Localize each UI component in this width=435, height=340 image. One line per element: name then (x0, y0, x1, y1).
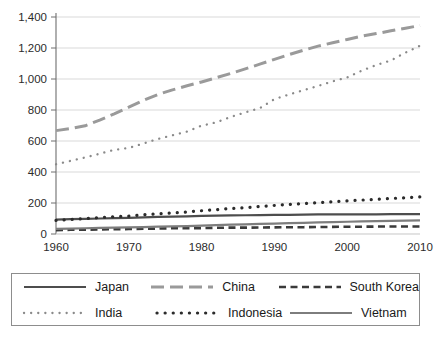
y-axis-tick-label: 200 (28, 197, 47, 209)
data-series-layer (56, 26, 420, 231)
gridlines (56, 17, 420, 234)
x-axis-tick-label: 2000 (334, 241, 360, 253)
legend-item-south-korea[interactable]: South Korea (277, 280, 420, 294)
legend-label: India (95, 306, 122, 320)
legend-item-india[interactable]: India (22, 306, 155, 320)
legend-row: JapanChinaSouth Korea (12, 274, 419, 300)
y-axis-tick-label: 600 (28, 135, 47, 147)
y-axis-tick-label: 800 (28, 104, 47, 116)
legend-swatch-vietnam (288, 307, 354, 319)
plot-svg: 1,4001,2001,0008006004002000 19601970198… (0, 0, 435, 265)
y-axis-tick-label: 1,200 (18, 42, 47, 54)
plot-area: 1,4001,2001,0008006004002000 19601970198… (0, 0, 435, 265)
series-line-japan (56, 214, 420, 219)
legend-item-indonesia[interactable]: Indonesia (155, 306, 288, 320)
legend-label: China (222, 280, 255, 294)
legend-label: Japan (95, 280, 129, 294)
legend-item-vietnam[interactable]: Vietnam (288, 306, 407, 320)
legend-swatch-indonesia (155, 307, 221, 319)
legend-swatch-south-korea (277, 281, 343, 293)
series-line-vietnam (56, 220, 420, 229)
y-axis-tick-label: 1,000 (18, 73, 47, 85)
legend-label: South Korea (350, 280, 420, 294)
legend-swatch-china (149, 281, 215, 293)
x-axis-tick-label: 1980 (189, 241, 215, 253)
legend: JapanChinaSouth Korea IndiaIndonesiaViet… (11, 273, 420, 326)
series-line-indonesia (56, 197, 420, 221)
y-axis-tick-labels: 1,4001,2001,0008006004002000 (18, 11, 47, 240)
line-chart: 1,4001,2001,0008006004002000 19601970198… (0, 0, 435, 340)
legend-item-japan[interactable]: Japan (22, 280, 149, 294)
x-axis-tick-label: 1960 (43, 241, 69, 253)
y-axis-tick-label: 0 (41, 228, 47, 240)
legend-row: IndiaIndonesiaVietnam (12, 300, 419, 326)
y-axis-tick-label: 1,400 (18, 11, 47, 23)
x-axis-tick-labels: 196019701980199020002010 (43, 241, 433, 253)
legend-swatch-india (22, 307, 88, 319)
series-line-china (56, 26, 420, 131)
axis-lines (51, 13, 420, 234)
x-axis-tick-label: 1990 (262, 241, 288, 253)
x-axis-tick-label: 1970 (116, 241, 142, 253)
y-axis-tick-label: 400 (28, 166, 47, 178)
x-axis-tick-label: 2010 (407, 241, 433, 253)
legend-swatch-japan (22, 281, 88, 293)
legend-label: Indonesia (228, 306, 282, 320)
legend-item-china[interactable]: China (149, 280, 276, 294)
series-line-india (56, 46, 420, 165)
legend-label: Vietnam (361, 306, 407, 320)
